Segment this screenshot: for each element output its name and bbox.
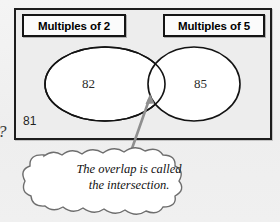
venn-diagram-figure: ? Multiples of 2 Multiples of 5 82 85 81… <box>0 0 280 222</box>
member-left-only: 82 <box>82 76 95 92</box>
member-outside-sets: 81 <box>23 114 36 128</box>
callout-line-1: The overlap is called <box>76 162 181 176</box>
callout-text-block: The overlap is called the intersection. <box>56 161 202 193</box>
member-right-only: 85 <box>194 76 207 92</box>
callout-line-2: the intersection. <box>89 178 170 192</box>
